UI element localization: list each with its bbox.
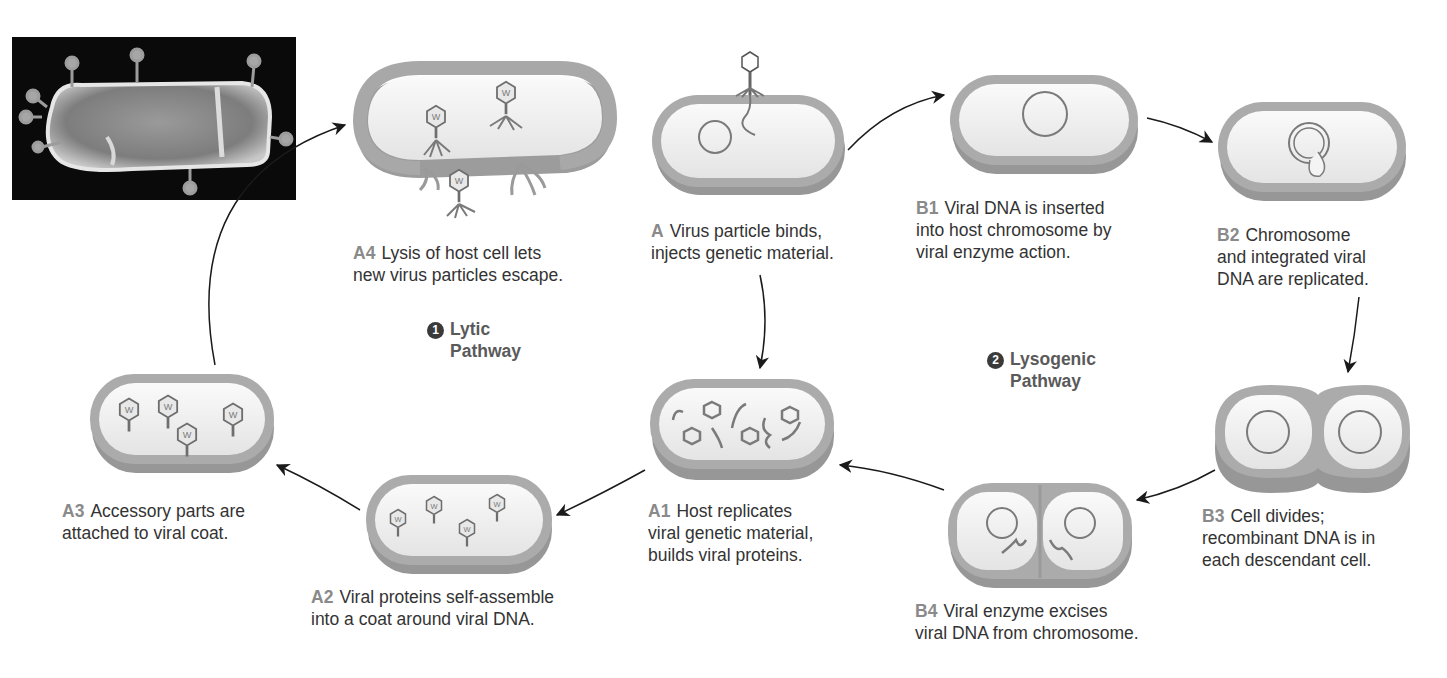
step-tag: A3 [62, 501, 84, 521]
step-tag: B1 [916, 198, 938, 218]
caption-text: into a coat around viral DNA. [311, 608, 554, 630]
caption-text: Accessory parts are [90, 501, 245, 521]
pathway-label-lysogenic: 2Lysogenic Pathway [987, 348, 1096, 392]
pathway-title: Lysogenic [1010, 349, 1096, 369]
caption-text: Chromosome [1245, 225, 1350, 245]
caption-text: Host replicates [676, 501, 792, 521]
caption-a4: A4Lysis of host cell lets new virus part… [353, 242, 563, 286]
cell-a3-tails [90, 374, 274, 473]
step-tag: A1 [648, 501, 670, 521]
caption-text: DNA are replicated. [1217, 268, 1369, 290]
cell-a1-replication [650, 379, 834, 480]
caption-text: viral enzyme action. [916, 241, 1112, 263]
circled-number-2-icon: 2 [987, 352, 1004, 369]
cell-b3-dividing [1215, 385, 1410, 493]
caption-a1: A1Host replicates viral genetic material… [648, 500, 813, 566]
caption-b4: B4Viral enzyme excises viral DNA from ch… [915, 600, 1139, 644]
caption-text: builds viral proteins. [648, 544, 813, 566]
diagram-canvas: W [0, 0, 1447, 678]
caption-text: Viral proteins self-assemble [339, 587, 554, 607]
circled-number-1-icon: 1 [427, 322, 444, 339]
caption-text: each descendant cell. [1202, 549, 1375, 571]
diagram-artwork: W [0, 0, 1447, 678]
cell-a2-assembly [366, 475, 552, 574]
caption-b2: B2Chromosome and integrated viral DNA ar… [1217, 224, 1369, 290]
caption-text: Virus particle binds, [670, 221, 822, 241]
caption-text: injects genetic material. [651, 242, 834, 264]
caption-text: Lysis of host cell lets [381, 243, 541, 263]
pathway-title: Lytic [450, 319, 490, 339]
caption-a2: A2Viral proteins self-assemble into a co… [311, 586, 554, 630]
caption-a3: A3Accessory parts are attached to viral … [62, 500, 245, 544]
step-tag: B2 [1217, 225, 1239, 245]
cell-b2-replication [1218, 102, 1406, 201]
caption-b1: B1Viral DNA is inserted into host chromo… [916, 197, 1112, 263]
step-tag: B4 [915, 601, 937, 621]
caption-text: and integrated viral [1217, 246, 1369, 268]
caption-text: viral genetic material, [648, 522, 813, 544]
caption-text: new virus particles escape. [353, 264, 563, 286]
cell-a-binding [652, 52, 845, 195]
pathway-subtitle: Pathway [987, 370, 1096, 392]
cell-b1-integration [950, 75, 1138, 174]
caption-text: attached to viral coat. [62, 522, 245, 544]
cell-a4-lysis [357, 68, 612, 218]
caption-text: recombinant DNA is in [1202, 527, 1375, 549]
pathway-subtitle: Pathway [427, 340, 521, 362]
cell-b4-excision [948, 483, 1132, 588]
caption-text: Cell divides; [1230, 506, 1324, 526]
caption-text: into host chromosome by [916, 219, 1112, 241]
caption-a: AVirus particle binds, injects genetic m… [651, 220, 834, 264]
pathway-label-lytic: 1Lytic Pathway [427, 318, 521, 362]
caption-text: Viral enzyme excises [943, 601, 1107, 621]
step-tag: A2 [311, 587, 333, 607]
step-tag: A [651, 221, 664, 241]
caption-text: viral DNA from chromosome. [915, 622, 1139, 644]
caption-text: Viral DNA is inserted [944, 198, 1104, 218]
caption-b3: B3Cell divides; recombinant DNA is in ea… [1202, 505, 1375, 571]
step-tag: A4 [353, 243, 375, 263]
step-tag: B3 [1202, 506, 1224, 526]
